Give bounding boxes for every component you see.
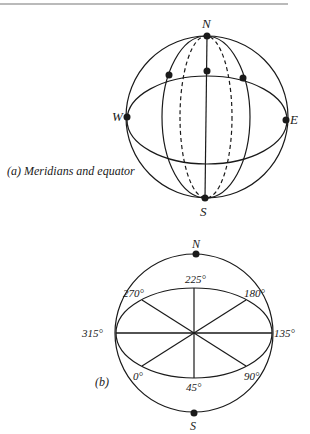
central-meridian xyxy=(205,36,207,198)
south-point-b xyxy=(191,410,198,417)
figure-canvas: N S W E (a) Meridians and equator N S 22… xyxy=(0,0,310,434)
west-point xyxy=(124,114,131,121)
label-north-b: N xyxy=(191,237,201,251)
equator-meridian-point-right xyxy=(240,75,247,82)
east-point xyxy=(283,117,290,124)
label-south-a: S xyxy=(200,204,207,219)
south-point xyxy=(202,195,209,202)
label-west-a: W xyxy=(112,109,124,124)
equator xyxy=(127,76,287,164)
label-south-b: S xyxy=(190,419,196,433)
label-angle-45: 45° xyxy=(186,381,202,393)
label-north-a: N xyxy=(201,16,212,31)
label-angle-135: 135° xyxy=(274,327,296,339)
label-angle-270: 270° xyxy=(123,287,145,299)
equator-meridian-point-left xyxy=(166,72,173,79)
equator-center-point xyxy=(204,68,211,75)
globe-meridians-equator xyxy=(126,36,288,198)
caption-a: (a) Meridians and equator xyxy=(7,164,135,178)
label-angle-315: 315° xyxy=(81,327,104,339)
label-angle-90: 90° xyxy=(244,370,260,382)
caption-b: (b) xyxy=(95,375,109,389)
label-east-a: E xyxy=(289,112,298,127)
label-angle-225: 225° xyxy=(185,273,207,285)
label-angle-180: 180° xyxy=(244,287,266,299)
north-point-b xyxy=(193,251,200,258)
north-point xyxy=(204,33,211,40)
label-angle-0: 0° xyxy=(133,370,144,382)
